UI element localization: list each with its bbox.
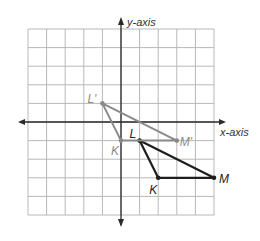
vertex-label: K [149, 183, 158, 197]
y-axis-arrow-up-icon [118, 17, 124, 25]
vertex-label: K [111, 144, 120, 158]
vertex-label: L' [87, 92, 97, 106]
y-axis-label: y-axis [126, 16, 156, 28]
x-axis-arrow-right-icon [219, 119, 226, 125]
vertex-label: M' [180, 135, 193, 149]
vertex-label: L [130, 127, 137, 141]
vertex-label: M [219, 172, 229, 186]
coordinate-plane: x-axis y-axis KLMKL'M' [0, 0, 260, 241]
vertex-point [119, 138, 124, 143]
vertex-point [100, 101, 105, 106]
x-axis-arrow-left-icon [18, 119, 25, 125]
vertex-point [212, 176, 217, 181]
vertex-point [156, 176, 161, 181]
x-axis-label: x-axis [219, 126, 249, 138]
y-axis-arrow-down-icon [118, 219, 124, 227]
vertex-point [175, 138, 180, 143]
